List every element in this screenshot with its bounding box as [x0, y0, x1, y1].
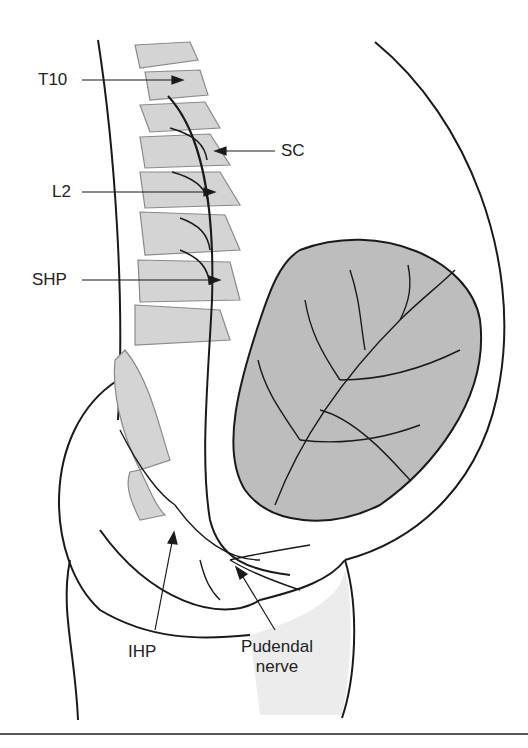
- label-pudendal-nerve: Pudendal nerve: [222, 638, 332, 675]
- uterus: [233, 240, 481, 521]
- label-l2: L2: [52, 183, 71, 200]
- leg-back-outline: [67, 560, 78, 720]
- label-ihp: IHP: [128, 643, 156, 660]
- label-t10: T10: [38, 71, 67, 88]
- label-pudendal-line2: nerve: [222, 658, 332, 675]
- label-shp: SHP: [32, 271, 67, 288]
- anatomy-diagram: [0, 0, 528, 748]
- perineum-outline: [100, 530, 345, 609]
- bottom-rule: [0, 733, 528, 735]
- spine: [114, 42, 240, 520]
- label-sc: SC: [281, 142, 305, 159]
- label-pudendal-line1: Pudendal: [222, 638, 332, 655]
